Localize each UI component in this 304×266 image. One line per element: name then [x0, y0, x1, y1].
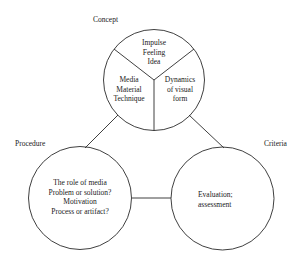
procedure-line: Motivation [35, 197, 125, 207]
concept-label: Concept [93, 15, 118, 24]
criteria-label: Criteria [264, 139, 287, 148]
segment-line: of visual [158, 85, 202, 95]
connector-concept-criteria [189, 115, 224, 148]
segment-line: Dynamics [158, 75, 202, 85]
segment-line: Idea [134, 57, 174, 67]
segment-line: Impulse [134, 38, 174, 48]
procedure-line: Process or artifact? [35, 207, 125, 217]
procedure-line: Problem or solution? [35, 188, 125, 198]
criteria-line: assessment [198, 200, 252, 210]
criteria-line: Evaluation; [198, 190, 252, 200]
concept-right-segment: Dynamics of visual form [158, 75, 202, 104]
segment-line: Media [107, 75, 151, 85]
segment-line: form [158, 94, 202, 104]
procedure-label: Procedure [15, 139, 45, 148]
concept-left-segment: Media Material Technique [107, 75, 151, 104]
segment-line: Technique [107, 94, 151, 104]
segment-line: Feeling [134, 48, 174, 58]
criteria-text: Evaluation; assessment [198, 190, 252, 209]
concept-top-segment: Impulse Feeling Idea [134, 38, 174, 67]
connector-concept-procedure [85, 115, 118, 148]
procedure-line: The role of media [35, 178, 125, 188]
segment-line: Material [107, 85, 151, 95]
procedure-text: The role of media Problem or solution? M… [35, 178, 125, 216]
